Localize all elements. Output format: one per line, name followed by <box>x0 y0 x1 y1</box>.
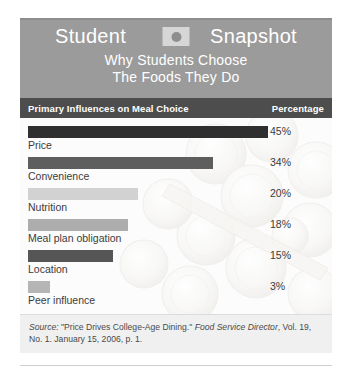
table-header-row: Primary Influences on Meal Choice Percen… <box>20 98 332 118</box>
bar-value-convenience: 34% <box>270 156 291 168</box>
source-article-title: "Price Drives College-Age Dining." <box>61 322 195 332</box>
column-header-percentage: Percentage <box>272 103 324 114</box>
chart-area: Price 45% Convenience 34% Nutrition 20% … <box>20 118 332 314</box>
title-word-snapshot: Snapshot <box>210 25 297 47</box>
bar-value-nutrition: 20% <box>270 187 291 199</box>
bar-price <box>28 126 268 138</box>
bar-convenience <box>28 157 213 169</box>
source-citation: Source: "Price Drives College-Age Dining… <box>20 314 332 353</box>
bar-label-nutrition: Nutrition <box>28 201 67 213</box>
table-row: Price 45% <box>20 124 332 155</box>
plate-icon <box>163 27 190 46</box>
table-row: Peer influence 3% <box>20 279 332 310</box>
bar-location <box>28 250 113 262</box>
bar-label-meal-plan-obligation: Meal plan obligation <box>28 232 121 244</box>
table-row: Location 15% <box>20 248 332 279</box>
source-publication-name: Food Service Director <box>195 322 278 332</box>
source-prefix: Source: <box>29 322 61 332</box>
plate-icon-center-dot <box>171 32 181 42</box>
student-snapshot-card: StudentSnapshot Why Students Choose The … <box>20 18 332 366</box>
bar-label-convenience: Convenience <box>28 170 89 182</box>
card-bottom-divider <box>20 365 332 366</box>
bar-value-location: 15% <box>270 249 291 261</box>
table-row: Convenience 34% <box>20 155 332 186</box>
subtitle-line-2: The Foods They Do <box>20 69 332 86</box>
bar-nutrition <box>28 188 138 200</box>
title-word-student: Student <box>55 25 126 47</box>
column-header-category: Primary Influences on Meal Choice <box>28 103 189 114</box>
bar-meal-plan-obligation <box>28 219 128 231</box>
subtitle-line-1: Why Students Choose <box>20 52 332 69</box>
table-row: Nutrition 20% <box>20 186 332 217</box>
masthead: StudentSnapshot Why Students Choose The … <box>20 18 332 98</box>
bar-value-price: 45% <box>270 125 291 137</box>
bar-rows: Price 45% Convenience 34% Nutrition 20% … <box>20 118 332 310</box>
bar-label-price: Price <box>28 139 52 151</box>
bar-value-peer-influence: 3% <box>270 280 285 292</box>
subtitle: Why Students Choose The Foods They Do <box>20 52 332 86</box>
bar-peer-influence <box>28 281 50 293</box>
bar-label-peer-influence: Peer influence <box>28 294 95 306</box>
bar-value-meal-plan-obligation: 18% <box>270 218 291 230</box>
bar-label-location: Location <box>28 263 68 275</box>
table-row: Meal plan obligation 18% <box>20 217 332 248</box>
